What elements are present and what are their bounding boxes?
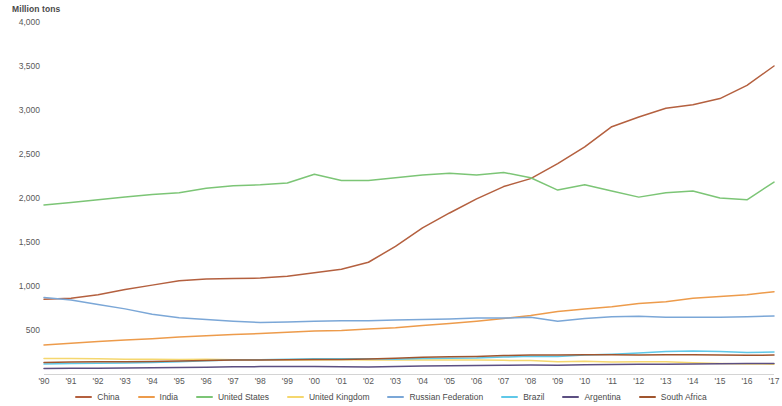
x-axis-tick: '09 — [552, 376, 563, 386]
legend-swatch-icon — [501, 396, 518, 399]
legend-label: United States — [218, 392, 269, 402]
line-chart: Million tons 5001,0001,5002,0002,5003,00… — [0, 0, 782, 406]
legend-item-china[interactable]: China — [75, 392, 119, 402]
legend-label: United Kingdom — [309, 392, 369, 402]
x-axis-tick: '11 — [607, 376, 617, 386]
legend-swatch-icon — [287, 396, 304, 399]
x-axis-tick: '06 — [471, 376, 482, 386]
x-axis-tick: '92 — [93, 376, 104, 386]
x-axis-tick: '07 — [498, 376, 509, 386]
legend-label: Argentina — [584, 392, 620, 402]
y-axis-tick: 3,500 — [0, 61, 40, 71]
x-axis-tick: '93 — [120, 376, 131, 386]
y-axis-tick: 3,000 — [0, 105, 40, 115]
y-axis-tick: 1,500 — [0, 237, 40, 247]
y-axis-tick: 2,500 — [0, 149, 40, 159]
legend-item-south-africa[interactable]: South Africa — [639, 392, 707, 402]
legend-swatch-icon — [639, 396, 656, 399]
x-axis-tick: '99 — [282, 376, 293, 386]
y-axis-tick: 500 — [0, 325, 40, 335]
legend-item-united-kingdom[interactable]: United Kingdom — [287, 392, 369, 402]
legend-label: India — [160, 392, 178, 402]
x-axis-tick: '97 — [228, 376, 239, 386]
x-axis-tick: '15 — [714, 376, 725, 386]
legend-item-argentina[interactable]: Argentina — [562, 392, 620, 402]
series-line-argentina — [44, 363, 774, 368]
legend-item-united-states[interactable]: United States — [196, 392, 269, 402]
x-axis-tick: '01 — [336, 376, 347, 386]
legend-swatch-icon — [138, 396, 155, 399]
series-lines — [44, 22, 774, 374]
x-axis-tick: '96 — [201, 376, 212, 386]
legend-item-brazil[interactable]: Brazil — [501, 392, 544, 402]
y-axis-tick-labels: 5001,0001,5002,0002,5003,0003,5004,000 — [0, 22, 40, 374]
x-axis-tick: '90 — [38, 376, 49, 386]
chart-legend: ChinaIndiaUnited StatesUnited KingdomRus… — [0, 389, 782, 405]
legend-label: Brazil — [523, 392, 544, 402]
y-axis-tick: 1,000 — [0, 281, 40, 291]
legend-swatch-icon — [196, 396, 213, 399]
x-axis-tick: '10 — [579, 376, 590, 386]
y-axis-tick: 4,000 — [0, 17, 40, 27]
legend-swatch-icon — [562, 396, 579, 399]
legend-swatch-icon — [75, 396, 92, 399]
plot-area — [44, 22, 774, 374]
legend-item-russian-federation[interactable]: Russian Federation — [387, 392, 483, 402]
x-axis-tick: '98 — [255, 376, 266, 386]
x-axis-tick: '17 — [768, 376, 779, 386]
legend-label: South Africa — [661, 392, 707, 402]
series-line-china — [44, 66, 774, 299]
x-axis-tick: '00 — [309, 376, 320, 386]
x-axis-tick: '04 — [417, 376, 428, 386]
legend-label: Russian Federation — [409, 392, 483, 402]
x-axis-tick: '16 — [741, 376, 752, 386]
x-axis-tick: '95 — [174, 376, 185, 386]
legend-label: China — [97, 392, 119, 402]
x-axis-tick: '12 — [633, 376, 644, 386]
legend-item-india[interactable]: India — [138, 392, 178, 402]
x-axis-tick: '02 — [363, 376, 374, 386]
y-axis-tick: 2,000 — [0, 193, 40, 203]
x-axis-tick: '08 — [525, 376, 536, 386]
series-line-united-states — [44, 172, 774, 205]
x-axis-tick-labels: '90'91'92'93'94'95'96'97'98'99'00'01'02'… — [44, 376, 774, 390]
x-axis-tick: '94 — [147, 376, 158, 386]
series-line-india — [44, 292, 774, 345]
y-axis-unit-caption: Million tons — [12, 4, 60, 14]
x-axis-tick: '13 — [660, 376, 671, 386]
x-axis-baseline — [44, 374, 774, 375]
x-axis-tick: '05 — [444, 376, 455, 386]
legend-swatch-icon — [387, 396, 404, 399]
x-axis-tick: '03 — [390, 376, 401, 386]
x-axis-tick: '14 — [687, 376, 698, 386]
x-axis-tick: '91 — [65, 376, 76, 386]
